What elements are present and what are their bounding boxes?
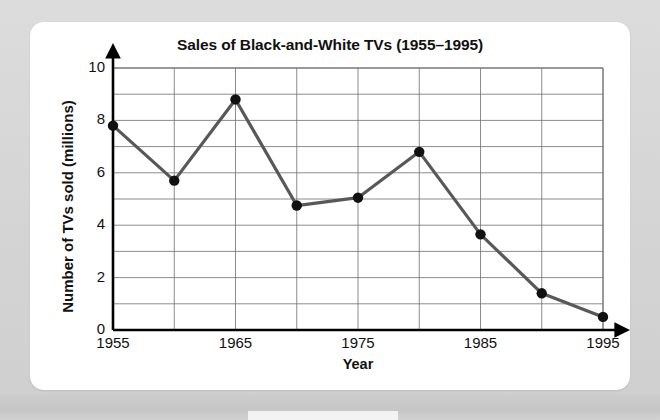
x-tick-label: 1985 bbox=[451, 334, 511, 351]
data-point bbox=[169, 175, 179, 185]
x-tick-label: 1955 bbox=[83, 334, 143, 351]
y-tick-label: 10 bbox=[79, 58, 105, 75]
y-tick-label: 4 bbox=[79, 215, 105, 232]
x-tick-label: 1995 bbox=[573, 334, 633, 351]
x-tick-label: 1965 bbox=[206, 334, 266, 351]
data-point bbox=[598, 312, 608, 322]
page-bottom-notch bbox=[248, 411, 398, 420]
data-point bbox=[230, 94, 240, 104]
x-tick-label: 1975 bbox=[328, 334, 388, 351]
data-point bbox=[292, 200, 302, 210]
data-point bbox=[353, 192, 363, 202]
y-tick-label: 8 bbox=[79, 110, 105, 127]
y-tick-label: 6 bbox=[79, 163, 105, 180]
y-tick-label: 2 bbox=[79, 268, 105, 285]
figure-card: Sales of Black-and-White TVs (1955–1995)… bbox=[30, 22, 630, 390]
data-point bbox=[475, 229, 485, 239]
data-point bbox=[108, 120, 118, 130]
data-point bbox=[537, 288, 547, 298]
data-point bbox=[414, 147, 424, 157]
chart-plot-area: Number of TVs sold (millions) Year 02468… bbox=[30, 22, 630, 390]
